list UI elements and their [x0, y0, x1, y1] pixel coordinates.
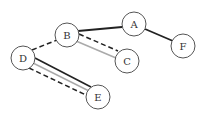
node-label: C [123, 56, 131, 67]
node-C: C [115, 49, 139, 73]
node-E: E [86, 85, 110, 109]
edge-B-C-light [76, 41, 116, 58]
node-F: F [171, 34, 195, 58]
node-label: B [63, 30, 70, 41]
edge-B-C-dashed [79, 34, 118, 51]
node-label: F [180, 41, 187, 52]
node-label: E [94, 92, 101, 103]
node-label: D [19, 53, 27, 64]
edge-D-E-dashed [29, 68, 88, 96]
edge-B-A [78, 27, 122, 31]
edge-D-E-dark [35, 58, 91, 87]
edge-A-F [145, 29, 173, 41]
node-A: A [122, 12, 146, 36]
node-D: D [11, 46, 35, 70]
edge-D-B [32, 40, 57, 50]
node-label: A [129, 19, 138, 30]
node-B: B [55, 23, 79, 47]
edge-D-E-light [33, 63, 89, 91]
graph-diagram: A B C D E F [0, 0, 205, 115]
